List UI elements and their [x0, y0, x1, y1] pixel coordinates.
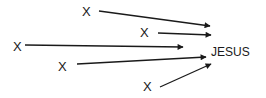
source-label-4: X: [58, 60, 67, 73]
arrow-4: [77, 57, 206, 64]
arrow-2: [158, 33, 211, 35]
target-label: JESUS: [211, 46, 250, 58]
source-label-3: X: [13, 40, 22, 53]
arrow-5: [160, 64, 211, 87]
arrow-3: [25, 45, 183, 47]
source-label-5: X: [143, 80, 152, 93]
source-label-1: X: [82, 5, 91, 18]
arrow-1: [99, 11, 210, 26]
source-label-2: X: [140, 26, 149, 39]
